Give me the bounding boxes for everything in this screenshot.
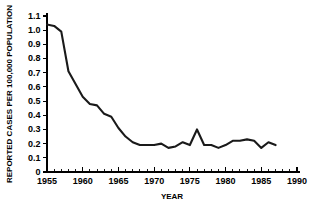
chart-container: 00.10.20.30.40.50.60.70.80.91.01.1195519…	[0, 0, 315, 218]
y-axis-tick-label: 0.9	[28, 39, 41, 49]
x-axis-tick-label: 1970	[144, 176, 164, 186]
y-axis-tick-label: 0.5	[28, 96, 41, 106]
x-axis-title: YEAR	[161, 192, 183, 201]
y-axis-tick-label: 1.0	[28, 25, 41, 35]
y-axis-tick-label: 0.8	[28, 53, 41, 63]
data-series-line	[47, 25, 276, 148]
y-axis-tick-label: 0.7	[28, 68, 41, 78]
x-axis-tick-label: 1965	[108, 176, 128, 186]
y-axis-tick-label: 1.1	[28, 11, 41, 21]
x-axis-tick-label: 1960	[73, 176, 93, 186]
x-axis-tick-label: 1975	[180, 176, 200, 186]
y-axis-tick-label: 0.6	[28, 82, 41, 92]
x-axis-tick-label: 1990	[287, 176, 307, 186]
y-axis-title: REPORTED CASES PER 100,000 POPULATION	[5, 5, 14, 183]
y-axis-tick-label: 0.3	[28, 124, 41, 134]
line-chart: 00.10.20.30.40.50.60.70.80.91.01.1195519…	[0, 0, 315, 218]
x-axis-tick-label: 1955	[37, 176, 57, 186]
y-axis-tick-label: 0.2	[28, 139, 41, 149]
y-axis-tick-label: 0.4	[28, 110, 41, 120]
x-axis-tick-label: 1980	[216, 176, 236, 186]
x-axis-tick-label: 1985	[251, 176, 271, 186]
y-axis-tick-label: 0.1	[28, 153, 41, 163]
